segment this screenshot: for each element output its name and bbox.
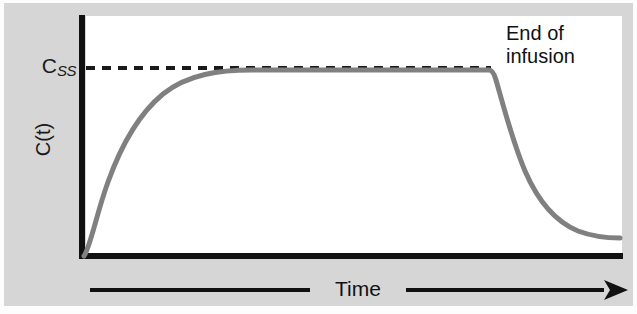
end-of-infusion-annotation: End of infusion <box>506 22 575 67</box>
css-label-main: C <box>42 54 57 77</box>
y-axis-line <box>79 15 85 259</box>
y-axis-tick-label-css: CSS <box>14 54 76 79</box>
time-axis-arrowhead-icon <box>604 280 628 300</box>
css-label-subscript: SS <box>57 62 76 79</box>
figure-container: CSS C(t) End of infusion Time <box>0 0 637 314</box>
y-axis-title: C(t) <box>32 95 55 185</box>
x-axis-title-group: Time <box>88 272 628 308</box>
x-axis-line <box>79 253 623 259</box>
x-axis-title: Time <box>330 277 386 301</box>
